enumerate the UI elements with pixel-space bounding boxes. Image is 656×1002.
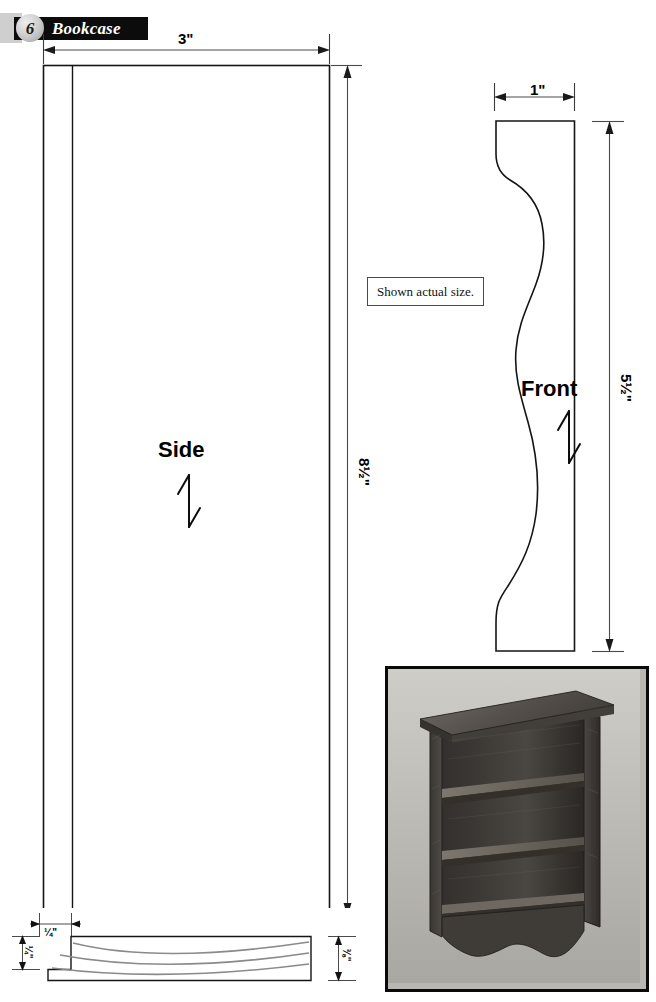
front-height-arrow-top bbox=[606, 121, 614, 134]
actual-size-note-text: Shown actual size. bbox=[377, 284, 474, 299]
rabbet-width-arrow-left bbox=[71, 921, 80, 928]
front-part-label: Front bbox=[521, 376, 577, 402]
front-width-arrow-left bbox=[494, 93, 506, 101]
side-part-label: Side bbox=[158, 437, 204, 463]
front-height-arrow-bottom bbox=[606, 639, 614, 652]
pattern-page: 6 Bookcase 3" 8½" Side bbox=[0, 0, 656, 1002]
rabbet-depth-label: ¼" bbox=[23, 945, 34, 958]
side-width-arrow-left bbox=[43, 46, 55, 54]
stock-thickness-label: ⅜" bbox=[341, 948, 352, 961]
front-width-arrow-right bbox=[563, 93, 575, 101]
side-height-arrow-top bbox=[344, 65, 352, 78]
actual-size-note: Shown actual size. bbox=[367, 277, 484, 306]
side-part-drawing bbox=[0, 28, 380, 908]
bookcase-photo-image bbox=[388, 669, 640, 983]
rabbet-depth-label-wrap: ¼" bbox=[14, 938, 42, 966]
side-width-label: 3" bbox=[178, 30, 193, 47]
side-width-arrow-right bbox=[318, 46, 330, 54]
side-height-label: 8½" bbox=[356, 458, 373, 486]
side-height-label-wrap: 8½" bbox=[344, 452, 384, 492]
cross-section-drawing bbox=[0, 908, 370, 1002]
front-height-label-wrap: 5½" bbox=[606, 368, 646, 408]
finished-bookcase-photo bbox=[385, 666, 649, 992]
front-width-label: 1" bbox=[530, 81, 545, 98]
rabbet-width-label: ¼" bbox=[44, 927, 57, 938]
side-grain-direction-arrow bbox=[172, 472, 206, 534]
stock-thickness-label-wrap: ⅜" bbox=[332, 941, 360, 969]
front-height-label: 5½" bbox=[618, 374, 635, 402]
rabbet-width-arrow-right bbox=[31, 921, 40, 928]
front-grain-direction-arrow bbox=[552, 408, 586, 470]
